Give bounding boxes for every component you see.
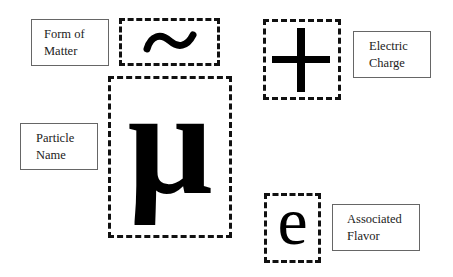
associated-flavor-label-line1: Associated: [347, 211, 419, 228]
associated-flavor-label-line2: Flavor: [347, 228, 419, 245]
form-of-matter-label-line1: Form of: [44, 26, 108, 43]
form-of-matter-label: Form of Matter: [31, 19, 109, 66]
electric-charge-label-line2: Charge: [369, 55, 430, 72]
form-of-matter-label-line2: Matter: [44, 43, 108, 60]
particle-name-label: Particle Name: [20, 123, 98, 170]
particle-name-label-line1: Particle: [36, 130, 97, 147]
electric-charge-label-line1: Electric: [369, 38, 430, 55]
associated-flavor-label: Associated Flavor: [332, 204, 420, 251]
plus-icon: [272, 28, 332, 92]
particle-name-symbol-box: μ: [108, 76, 232, 238]
particle-name-label-line2: Name: [36, 147, 97, 164]
electric-charge-label: Electric Charge: [353, 31, 431, 78]
tilde-icon: [143, 29, 197, 55]
associated-flavor-symbol-box: e: [264, 193, 321, 263]
electric-charge-symbol-box: +: [263, 19, 341, 100]
e-symbol: e: [277, 187, 307, 255]
mu-symbol: μ: [127, 67, 212, 217]
